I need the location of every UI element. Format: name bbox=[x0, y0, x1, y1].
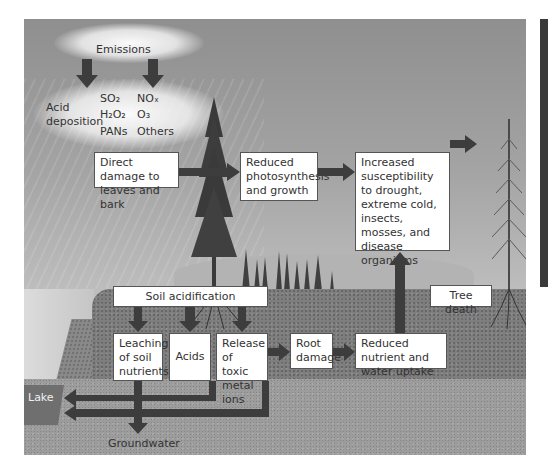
adjacent-page-image-edge bbox=[540, 19, 548, 287]
lake-label: Lake bbox=[28, 391, 54, 405]
arrow-down-icon bbox=[128, 307, 148, 333]
box-acids: Acids bbox=[169, 333, 211, 381]
dead-tree-roots bbox=[489, 289, 526, 329]
box-direct-damage: Direct damage to leaves and bark bbox=[94, 152, 179, 188]
arrow-to-lake-icon bbox=[64, 381, 269, 421]
arrow-down-icon bbox=[76, 59, 98, 89]
arrow-down-icon bbox=[142, 59, 164, 89]
box-root-damage: Root damage bbox=[290, 333, 333, 369]
arrow-right-icon bbox=[450, 135, 478, 153]
arrow-right-icon bbox=[268, 343, 291, 361]
box-increased-susceptibility: Increased susceptibility to drought, ext… bbox=[355, 152, 450, 251]
box-toxic-metal-ions: Release of toxic metal ions bbox=[216, 333, 268, 381]
pollutant-others: Others bbox=[137, 125, 174, 139]
pollutant-h2o2: H₂O₂ bbox=[100, 108, 126, 122]
pollutant-o3: O₃ bbox=[137, 108, 150, 122]
arrow-right-icon bbox=[333, 343, 356, 361]
arrow-down-icon bbox=[179, 307, 201, 333]
box-soil-acidification: Soil acidification bbox=[113, 286, 268, 307]
box-reduced-photosynthesis: Reduced photosynthesis and growth bbox=[240, 152, 318, 201]
acid-deposition-label: Acid deposition bbox=[46, 101, 96, 129]
emissions-label: Emissions bbox=[96, 43, 151, 57]
acid-deposition-diagram: Emissions SO₂ H₂O₂ PANs NOₓ O₃ Others Ac… bbox=[24, 19, 526, 455]
box-tree-death: Tree death bbox=[430, 285, 492, 307]
healthy-tree bbox=[189, 97, 239, 297]
dead-tree bbox=[492, 119, 526, 294]
box-leaching: Leaching of soil nutrients bbox=[113, 333, 163, 381]
arrow-down-icon bbox=[232, 307, 252, 333]
pollutant-so2: SO₂ bbox=[100, 92, 120, 106]
pollutant-nox: NOₓ bbox=[137, 92, 159, 106]
arrow-right-icon bbox=[318, 163, 356, 181]
pollutant-pans: PANs bbox=[100, 125, 127, 139]
background-trees bbox=[234, 241, 344, 291]
box-reduced-uptake: Reduced nutrient and water uptake bbox=[355, 333, 447, 369]
arrow-right-icon bbox=[179, 163, 241, 181]
groundwater-label: Groundwater bbox=[108, 437, 180, 451]
